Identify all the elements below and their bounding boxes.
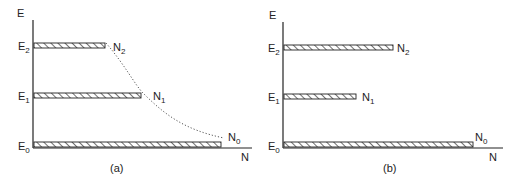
boltzmann-curve [106,43,224,138]
panel-a: E N E2 N2 E1 N1 E0 N0 (a) [17,7,252,174]
energy-label-e2: E2 [18,40,30,55]
population-label-n1: N1 [362,91,375,106]
panel-caption-b: (b) [383,162,396,174]
level-bar-e2 [34,43,105,48]
panel-b: E N E2 N2 E1 N1 E0 N0 (b) [268,9,503,174]
panel-caption-a: (a) [110,162,123,174]
population-label-n2: N2 [397,42,410,57]
y-axis-label: E [269,9,276,21]
y-axis-label: E [17,7,24,19]
energy-level-population-diagram: E N E2 N2 E1 N1 E0 N0 (a) E N E2 N2 E1 N… [0,0,514,189]
x-axis-label: N [241,151,249,163]
population-label-n1: N1 [153,90,166,105]
level-bar-e0 [284,142,473,147]
energy-label-e1: E1 [18,90,30,105]
energy-label-e0: E0 [268,140,280,155]
population-label-n0: N0 [228,131,241,146]
level-bar-e2 [284,45,393,50]
energy-label-e1: E1 [268,91,280,106]
energy-label-e2: E2 [268,42,280,57]
energy-label-e0: E0 [18,140,30,155]
level-bar-e0 [34,142,221,147]
level-bar-e1 [34,93,141,98]
population-label-n0: N0 [475,131,488,146]
x-axis-label: N [489,151,497,163]
level-bar-e1 [284,94,356,99]
